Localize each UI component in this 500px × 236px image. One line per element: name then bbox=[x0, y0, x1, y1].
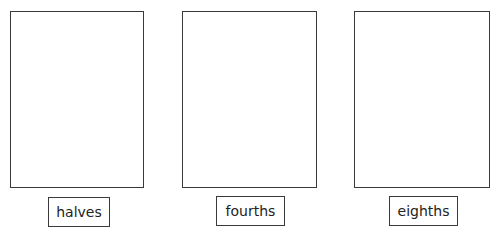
label-fourths: fourths bbox=[216, 196, 285, 226]
label-fourths-text: fourths bbox=[226, 203, 276, 219]
label-halves-text: halves bbox=[56, 204, 102, 220]
label-halves: halves bbox=[48, 197, 110, 227]
rectangle-fourths bbox=[182, 11, 317, 188]
label-eighths-text: eighths bbox=[398, 203, 450, 219]
label-eighths: eighths bbox=[389, 196, 458, 226]
rectangle-eighths bbox=[354, 11, 490, 188]
rectangle-halves bbox=[10, 11, 144, 188]
